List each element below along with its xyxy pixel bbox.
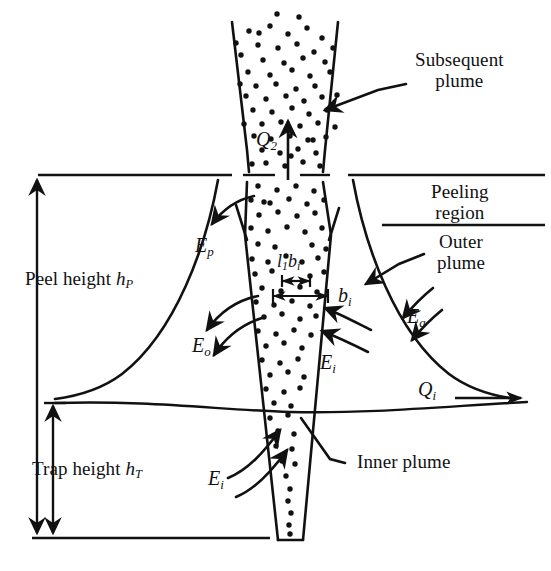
inner-plume-label: Inner plume [357, 452, 450, 473]
subsequent-plume-label-line2: plume [435, 70, 483, 91]
q2-label-base: Q [256, 128, 271, 150]
ei-entrainment-arrows-lower [228, 430, 287, 497]
ei-label-lower-base: E [208, 467, 220, 489]
peeling-region-label: Peeling region [431, 182, 489, 223]
ea-label-sub: a [419, 315, 426, 330]
eo-label-base: E [192, 334, 204, 356]
l1bi-label: l1bi [277, 252, 300, 274]
peel-height-label: Peel height hP [25, 269, 133, 292]
peel-height-subscript: P [126, 277, 134, 291]
eo-label-sub: o [204, 344, 211, 359]
ep-entrainment-arrows [212, 196, 254, 224]
ei-label-upper: Ei [320, 352, 336, 376]
inner-plume-particles [248, 183, 328, 536]
subsequent-plume-label-line1: Subsequent [415, 49, 504, 70]
eo-label: Eo [192, 335, 211, 359]
l1bi-label-b-sub: i [297, 260, 300, 273]
bi-label: bi [338, 285, 352, 309]
ei-label-upper-sub: i [332, 361, 336, 376]
ei-label-lower-sub: i [220, 477, 224, 492]
ep-label-base: E [195, 234, 207, 256]
leader-lines [301, 84, 424, 463]
trap-height-label: Trap height hT [32, 459, 142, 482]
ei-entrainment-arrows-upper [322, 308, 371, 352]
l1bi-label-b: b [288, 251, 297, 271]
plume-schematic-figure: Subsequent plume Peeling region Outer pl… [0, 0, 551, 571]
ei-label-upper-base: E [320, 351, 332, 373]
outer-plume-label: Outer plume [437, 232, 485, 273]
ei-label-lower: Ei [208, 468, 224, 492]
ep-label-sub: p [207, 244, 214, 259]
peeling-region-label-line1: Peeling [431, 181, 489, 202]
ep-label: Ep [195, 235, 214, 259]
q2-label-sub: 2 [271, 138, 278, 153]
outer-plume-label-line2: plume [437, 252, 485, 273]
peel-height-symbol: h [116, 268, 126, 289]
bi-label-sub: i [348, 294, 352, 309]
bi-label-base: b [338, 284, 348, 306]
subsequent-plume-label: Subsequent plume [415, 50, 504, 91]
peeling-region-label-line2: region [435, 202, 484, 223]
inner-plume-outline [245, 182, 331, 540]
trap-height-subscript: T [135, 467, 142, 481]
qi-label: Qi [418, 379, 436, 403]
trap-height-symbol: h [125, 458, 135, 479]
trap-height-label-text: Trap height [32, 458, 121, 479]
q2-label: Q2 [256, 129, 277, 153]
qi-label-sub: i [433, 388, 437, 403]
ea-label: Ea [407, 306, 426, 330]
subsequent-plume-particles [233, 11, 339, 168]
l1bi-dimension-arrow [282, 275, 310, 287]
qi-label-base: Q [418, 378, 433, 400]
outer-plume-label-line1: Outer [439, 231, 483, 252]
peel-height-label-text: Peel height [25, 268, 111, 289]
ea-label-base: E [407, 305, 419, 327]
